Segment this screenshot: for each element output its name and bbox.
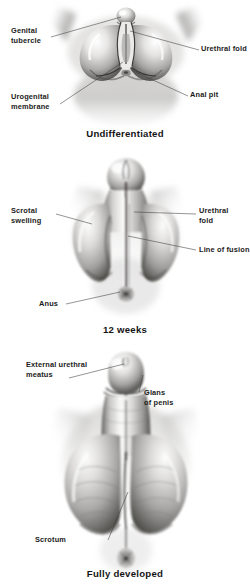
label-anal-pit: Anal pit (190, 90, 218, 100)
label-scrotal-swelling: Scrotal swelling (11, 206, 41, 225)
panel-fully-developed: External urethral meatus Glans of penis … (0, 344, 250, 587)
label-anus: Anus (39, 299, 58, 309)
panel-twelve-weeks: Scrotal swelling Urethral fold Line of f… (0, 152, 250, 344)
label-urethral-fold: Urethral fold (201, 44, 247, 54)
label-scrotum: Scrotum (35, 535, 66, 545)
label-glans-of-penis: Glans of penis (144, 388, 174, 407)
label-line-of-fusion: Line of fusion (199, 245, 250, 255)
label-external-urethral-meatus: External urethral meatus (26, 360, 87, 379)
anatomy-figure: Genital tubercle Urethral fold Urogenita… (0, 0, 250, 587)
leader-lines-fully-developed (0, 344, 250, 587)
caption-undifferentiated: Undifferentiated (0, 128, 250, 139)
label-genital-tubercle: Genital tubercle (11, 26, 41, 45)
label-urethral-fold-12w: Urethral fold (199, 206, 229, 225)
caption-fully-developed: Fully developed (0, 568, 250, 579)
label-urogenital-membrane: Urogenital membrane (11, 92, 50, 111)
panel-undifferentiated: Genital tubercle Urethral fold Urogenita… (0, 0, 250, 152)
illustration-fully-developed (0, 344, 250, 587)
caption-twelve-weeks: 12 weeks (0, 324, 250, 335)
